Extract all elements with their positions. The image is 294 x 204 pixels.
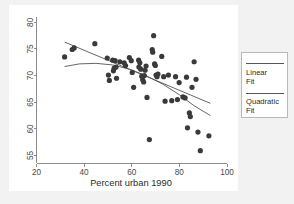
y-tick-label: 80 [26,17,35,27]
legend-label-linear: Linear Fit [246,69,288,86]
x-tick-label: 60 [127,168,137,177]
data-point [159,54,164,59]
axes [37,17,228,164]
data-point [131,85,136,90]
data-point [62,54,67,59]
data-point [141,79,146,84]
data-point [206,133,211,138]
data-point [144,95,149,100]
x-tick-label: 100 [220,168,234,177]
data-point [123,63,128,68]
data-point [153,63,158,68]
data-point [189,85,194,90]
data-point [142,73,147,78]
data-point [130,70,135,75]
data-point [193,77,198,82]
data-point [173,74,178,79]
x-axis-ticks: 20406080100 [32,164,234,177]
data-point [113,64,118,69]
x-tick-label: 80 [175,168,185,177]
x-tick-label: 40 [80,168,90,177]
data-point [161,74,166,79]
y-tick-label: 60 [26,124,35,134]
data-point [184,75,189,80]
data-point [162,99,167,104]
legend-label-quadratic: Quadratic Fit [246,98,288,115]
scatter-plot-svg: 556065707580 20406080100 Percent urban 1… [9,5,238,191]
data-point [106,72,111,77]
data-point [169,98,174,103]
legend-swatch-linear [246,63,284,64]
y-axis-ticks: 556065707580 [26,17,37,160]
data-point [150,50,155,55]
data-point [137,60,142,65]
x-axis-title: Percent urban 1990 [90,178,172,188]
data-point [185,125,190,130]
chart-screenshot: 556065707580 20406080100 Percent urban 1… [0,0,294,204]
data-point [107,78,112,83]
data-point [198,148,203,153]
data-point [177,80,182,85]
data-point [195,129,200,134]
x-tick-label: 20 [32,168,42,177]
data-point [129,58,134,63]
legend-swatch-quadratic [246,93,284,94]
y-tick-label: 70 [26,71,35,81]
y-tick-label: 65 [26,97,35,107]
data-points [62,33,212,153]
data-point [182,95,187,100]
data-point [105,55,110,60]
data-point [188,114,193,119]
legend: Linear Fit Quadratic Fit [241,52,288,118]
plot-region: 556065707580 20406080100 Percent urban 1… [9,5,238,191]
data-point [143,63,148,68]
data-point [92,41,97,46]
data-point [192,59,197,64]
data-point [112,58,117,63]
data-point [175,97,180,102]
quadratic-fit-line [65,63,211,115]
data-point [72,45,77,50]
data-point [151,33,156,38]
y-tick-label: 75 [26,44,35,54]
data-point [114,76,119,81]
y-tick-label: 55 [26,151,35,161]
data-point [147,137,152,142]
data-point [166,72,171,77]
data-point [155,71,160,76]
